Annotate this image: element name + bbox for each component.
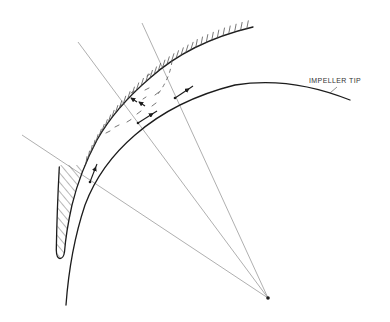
arrow-shaft-tail [153, 111, 157, 114]
streamline-dash [147, 74, 150, 76]
hatch-stroke [229, 26, 231, 34]
streamline-dash [127, 120, 131, 123]
radial-line-2 [78, 42, 268, 298]
streamline-dash [143, 97, 146, 99]
streamline-dash [137, 111, 141, 114]
impeller-tip-leader-line [330, 87, 337, 93]
arrow-shaft [175, 89, 189, 98]
casing-wall-curve [56, 27, 253, 259]
arrow-shaft [138, 114, 153, 124]
impeller-tip-curve [66, 83, 350, 305]
arrow-shaft [131, 98, 137, 102]
streamline-dash [145, 88, 149, 90]
arrow-shaft [139, 102, 145, 106]
streamline-dash [106, 131, 110, 133]
velocity-arrow-4 [174, 86, 193, 99]
casing-hatching [86, 21, 249, 164]
streamline-dash [152, 103, 156, 106]
hatch-stroke [223, 28, 225, 36]
hatch-stroke [247, 21, 249, 29]
radial-line-3 [142, 23, 268, 298]
velocity-arrow-3 [137, 111, 157, 124]
arrow-shaft-tail [96, 164, 97, 167]
reverse-flow-arrow-2 [139, 102, 145, 106]
diagram-canvas: IMPELLER TIP [0, 0, 390, 322]
hatch-stroke [235, 24, 237, 32]
reverse-flow-arrow-1 [131, 98, 137, 102]
impeller-center-point [266, 296, 270, 300]
streamline-dash [115, 125, 119, 127]
arrow-shaft-tail [189, 86, 193, 89]
impeller-tip-label: IMPELLER TIP [309, 77, 361, 84]
streamline-dashes [106, 74, 159, 133]
arrow-shaft [90, 167, 96, 182]
hatch-stroke [241, 22, 243, 30]
volute-flow-diagram: IMPELLER TIP [0, 0, 390, 322]
